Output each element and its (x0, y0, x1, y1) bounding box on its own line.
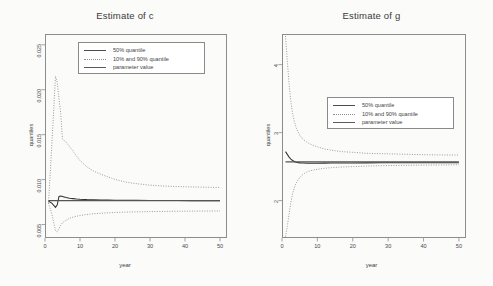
legend-key-dotted-icon (331, 110, 357, 118)
legend-key-dotted-icon (82, 55, 108, 63)
x-tick-label: 0 (33, 243, 57, 249)
legend-label-parameter: parameter value (362, 118, 402, 127)
x-tick-label: 30 (376, 243, 400, 249)
x-tick-label: 10 (305, 243, 329, 249)
legend-label-median: 50% quantile (113, 46, 145, 55)
legend-row-parameter: parameter value (331, 118, 449, 127)
legend-g: 50% quantile 10% and 90% quantile parame… (327, 97, 454, 129)
legend-label-quantiles: 10% and 90% quantile (362, 110, 418, 119)
x-tick-label: 40 (173, 243, 197, 249)
legend-label-parameter: parameter value (113, 63, 153, 72)
y-tick-label: 0.010 (36, 179, 42, 209)
x-axis-title-g: year (250, 262, 493, 268)
legend-row-quantiles: 10% and 90% quantile (82, 55, 200, 64)
x-tick-label: 20 (103, 243, 127, 249)
legend-key-solid-icon (331, 101, 357, 109)
legend-key-solid-icon (82, 46, 108, 54)
y-axis-title-c: quantiles (28, 115, 34, 155)
legend-label-quantiles: 10% and 90% quantile (113, 55, 169, 64)
x-tick-label: 40 (412, 243, 436, 249)
x-tick-label: 50 (208, 243, 232, 249)
y-tick-label: 0.015 (36, 134, 42, 164)
legend-row-median: 50% quantile (82, 46, 200, 55)
legend-row-quantiles: 10% and 90% quantile (331, 110, 449, 119)
x-tick-label: 30 (138, 243, 162, 249)
panel-estimate-of-g: Estimate of g 234 01020304050 quantiles … (250, 0, 493, 286)
legend-row-median: 50% quantile (331, 101, 449, 110)
y-tick-label: 4 (273, 64, 279, 94)
y-tick-label: 0.020 (36, 89, 42, 119)
y-tick-label: 2 (273, 200, 279, 230)
x-tick-label: 20 (341, 243, 365, 249)
x-tick-label: 10 (68, 243, 92, 249)
legend-key-param-icon (331, 118, 357, 126)
x-axis-title-c: year (0, 262, 250, 268)
legend-c: 50% quantile 10% and 90% quantile parame… (78, 42, 205, 74)
y-tick-label: 0.005 (36, 224, 42, 254)
y-tick-label: 0.025 (36, 44, 42, 74)
figure-canvas: Estimate of c 0.0050.0100.0150.0200.025 … (0, 0, 493, 286)
x-tick-label: 0 (270, 243, 294, 249)
panel-estimate-of-c: Estimate of c 0.0050.0100.0150.0200.025 … (0, 0, 250, 286)
legend-key-param-icon (82, 63, 108, 71)
y-tick-label: 3 (273, 132, 279, 162)
x-tick-label: 50 (447, 243, 471, 249)
legend-row-parameter: parameter value (82, 63, 200, 72)
legend-label-median: 50% quantile (362, 101, 394, 110)
y-axis-title-g: quantiles (265, 115, 271, 155)
